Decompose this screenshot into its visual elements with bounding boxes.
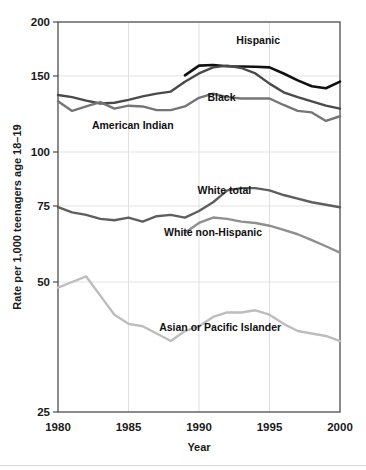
y-tick-label: 75	[37, 200, 50, 212]
series-label-4: White non-Hispanic	[164, 226, 262, 238]
line-chart: 255075100150200 19801985199019952000 His…	[0, 0, 366, 470]
series-label-1: Black	[208, 91, 236, 103]
y-tick-label: 50	[37, 276, 50, 288]
y-axis-title: Rate per 1,000 teenagers age 18–19	[11, 124, 23, 309]
x-tick-label: 1980	[45, 421, 71, 433]
x-tick-label: 1990	[186, 421, 212, 433]
y-tick-label: 100	[31, 146, 50, 158]
bottom-divider	[0, 465, 366, 466]
y-tick-label: 200	[31, 16, 50, 28]
y-tick-label: 150	[31, 70, 50, 82]
x-tick-label: 1995	[257, 421, 283, 433]
series-label-3: White total	[198, 184, 252, 196]
series-label-2: American Indian	[92, 119, 174, 131]
figure-container: Figure 2 Birth rates per 1,000 teenagers…	[0, 0, 366, 470]
x-tick-label: 2000	[327, 421, 353, 433]
x-tick-label: 1985	[116, 421, 142, 433]
y-tick-label: 25	[37, 406, 50, 418]
x-axis-title: Year	[187, 441, 211, 453]
series-label-5: Asian or Pacific Islander	[159, 321, 281, 333]
series-label-0: Hispanic	[236, 34, 280, 46]
